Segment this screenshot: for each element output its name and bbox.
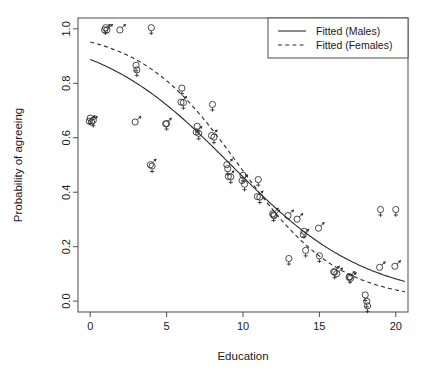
x-tick-label: 15 [313,320,325,332]
x-tick-label: 10 [237,320,249,332]
y-tick-label: 0.0 [60,293,72,308]
y-tick-label: 1.0 [60,21,72,36]
x-tick-label: 0 [87,320,93,332]
y-tick-label: 0.8 [60,76,72,91]
chart-container: 05101520 0.00.20.40.60.81.0 Education Pr… [0,0,429,381]
x-axis-title: Education [217,350,268,362]
y-tick-label: 0.6 [60,130,72,145]
x-tick-label: 5 [164,320,170,332]
y-tick-label: 0.2 [60,239,72,254]
x-tick-label: 20 [390,320,402,332]
legend-label: Fitted (Females) [316,39,392,51]
y-tick-label: 0.4 [60,185,72,200]
scatter-plot: 05101520 0.00.20.40.60.81.0 Education Pr… [0,0,429,381]
legend: Fitted (Males)Fitted (Females) [268,18,408,58]
legend-label: Fitted (Males) [316,25,380,37]
y-axis-title: Probability of agreeing [12,108,24,222]
